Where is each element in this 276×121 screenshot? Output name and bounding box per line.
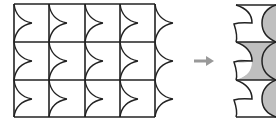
- tessellation-diagram: [0, 0, 276, 121]
- left-grid: [14, 4, 173, 117]
- result-pattern: [234, 4, 276, 117]
- right-arrow-icon: [194, 56, 214, 66]
